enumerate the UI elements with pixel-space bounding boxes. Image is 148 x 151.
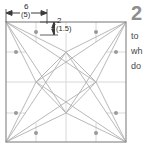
registration-dot: [94, 131, 98, 135]
body-text-line: do: [131, 62, 141, 71]
registration-dot: [34, 131, 38, 135]
quilt-block-diagram: 6 (5) 2 (1.5): [0, 0, 128, 151]
registration-dot: [114, 50, 118, 54]
body-text-line: to: [131, 32, 139, 41]
registration-dot: [114, 111, 118, 115]
registration-dot: [34, 30, 38, 34]
diagram-page: 6 (5) 2 (1.5) 2 to wh do: [0, 0, 148, 151]
width-alt-dimension-label: (5): [20, 11, 31, 19]
diagram-canvas: [0, 0, 128, 151]
registration-dot: [94, 30, 98, 34]
registration-dot: [14, 111, 18, 115]
height-alt-dimension-label: (1.5): [55, 25, 72, 33]
question-text-column: 2 to wh do: [130, 0, 148, 151]
registration-dot: [14, 50, 18, 54]
question-number: 2: [131, 3, 142, 23]
gridlines: [6, 22, 126, 142]
body-text-line: wh: [131, 47, 143, 56]
